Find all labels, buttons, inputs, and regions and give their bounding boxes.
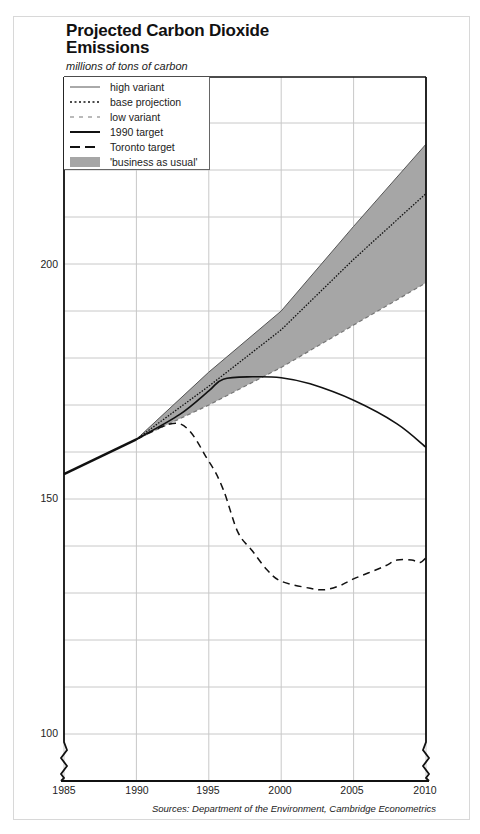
legend-item-business-as-usual: 'business as usual'	[64, 154, 197, 169]
legend-item-high-variant: high variant	[64, 79, 164, 94]
source-note: Sources: Department of the Environment, …	[152, 803, 436, 814]
y-tick-150: 150	[28, 492, 58, 504]
legend-item-low-variant: low variant	[64, 109, 160, 124]
long-dash-line-icon	[70, 142, 100, 152]
legend-item-1990-target: 1990 target	[64, 124, 163, 139]
axes	[61, 77, 429, 781]
x-tick-1985: 1985	[44, 784, 84, 796]
legend-item-toronto-target: Toronto target	[64, 139, 175, 154]
thick-line-icon	[70, 127, 100, 137]
legend-label: high variant	[110, 81, 164, 93]
y-tick-100: 100	[28, 727, 58, 739]
legend-label: 'business as usual'	[110, 156, 197, 168]
legend-label: 1990 target	[110, 126, 163, 138]
grey-fill-swatch-icon	[70, 157, 100, 167]
x-tick-1995: 1995	[188, 784, 228, 796]
legend: high variant base projection low variant…	[64, 77, 210, 170]
legend-label: low variant	[110, 111, 160, 123]
dashed-line-icon	[70, 112, 100, 122]
dotted-line-icon	[70, 97, 100, 107]
gridlines	[64, 77, 426, 781]
x-tick-2010: 2010	[405, 784, 445, 796]
y-tick-200: 200	[28, 258, 58, 270]
legend-label: base projection	[110, 96, 181, 108]
x-tick-1990: 1990	[117, 784, 157, 796]
legend-label: Toronto target	[110, 141, 175, 153]
thin-line-icon	[70, 82, 100, 92]
historical-line	[64, 439, 136, 474]
x-tick-2005: 2005	[332, 784, 372, 796]
x-tick-2000: 2000	[260, 784, 300, 796]
legend-item-base-projection: base projection	[64, 94, 181, 109]
